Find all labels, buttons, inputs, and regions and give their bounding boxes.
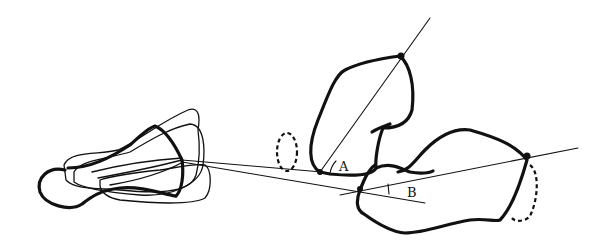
hand-b-pivot-marker <box>524 153 531 160</box>
angle-a: A <box>330 159 349 174</box>
shuttlecock-skirt <box>68 126 183 196</box>
hand-b-wrist-marker <box>357 186 363 192</box>
hand-b-outline <box>357 130 527 233</box>
hand-a-top-pivot-marker <box>398 53 405 60</box>
reference-lines <box>182 18 578 203</box>
diagram-stage: A B <box>0 0 606 247</box>
shuttle-outline-2 <box>74 124 204 195</box>
dashed-ellipse-marker <box>277 133 297 171</box>
diagram-svg: A B <box>0 0 606 247</box>
hand-b-wrist <box>360 165 375 190</box>
hand-a-bottom-pivot-marker <box>317 169 323 175</box>
angle-b-label: B <box>407 185 417 200</box>
hand-a-outline <box>311 56 413 175</box>
hand-b <box>357 130 537 233</box>
shuttlecock-cork <box>39 169 175 207</box>
shuttlecock <box>39 126 183 207</box>
angle-a-arc <box>330 161 336 173</box>
line-shuttle-to-b-extension <box>182 162 425 203</box>
angle-a-label: A <box>338 159 349 174</box>
hand-a <box>311 53 433 176</box>
